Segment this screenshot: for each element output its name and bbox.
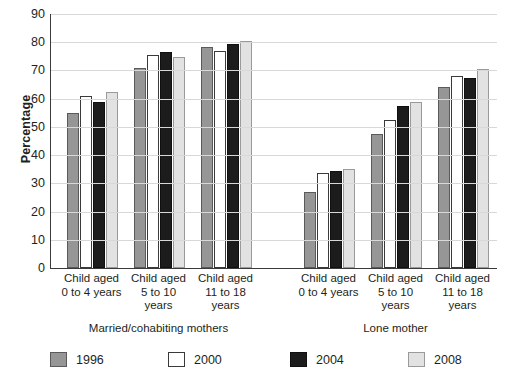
y-axis-tick-label: 60 bbox=[5, 92, 45, 106]
bar-2004-cat1 bbox=[160, 52, 172, 268]
category-label-line: years bbox=[359, 299, 433, 313]
gridline bbox=[51, 155, 497, 156]
bar-1996-cat2 bbox=[201, 47, 213, 268]
category-label-line: years bbox=[426, 299, 500, 313]
category-label-line: Child aged bbox=[122, 272, 196, 286]
category-label-line: Child aged bbox=[55, 272, 129, 286]
category-label: Child aged11 to 18years bbox=[426, 272, 500, 313]
y-axis-tick-label: 20 bbox=[5, 205, 45, 219]
category-label: Child aged5 to 10years bbox=[122, 272, 196, 313]
legend-item-2008[interactable]: 2008 bbox=[408, 352, 462, 367]
y-axis-tick-label: 50 bbox=[5, 120, 45, 134]
bar-chart: Percentage 0102030405060708090 Child age… bbox=[0, 0, 521, 384]
legend-swatch-2000 bbox=[168, 352, 185, 367]
category-label-line: 11 to 18 bbox=[426, 286, 500, 300]
legend-item-1996[interactable]: 1996 bbox=[50, 352, 104, 367]
gridline bbox=[51, 14, 497, 15]
y-axis-tick-label: 10 bbox=[5, 233, 45, 247]
bar-2000-cat0 bbox=[80, 96, 92, 268]
bar-2000-cat3 bbox=[317, 173, 329, 268]
category-label-line: 5 to 10 bbox=[122, 286, 196, 300]
gridline bbox=[51, 42, 497, 43]
category-label-line: years bbox=[122, 299, 196, 313]
y-axis-tick-label: 80 bbox=[5, 35, 45, 49]
gridline bbox=[51, 127, 497, 128]
gridline bbox=[51, 212, 497, 213]
legend-swatch-2004 bbox=[290, 352, 307, 367]
category-label-line: Child aged bbox=[426, 272, 500, 286]
category-label: Child aged0 to 4 years bbox=[55, 272, 129, 299]
bar-2000-cat4 bbox=[384, 120, 396, 268]
legend-swatch-2008 bbox=[408, 352, 425, 367]
y-axis-tick-label: 90 bbox=[5, 7, 45, 21]
bar-2008-cat0 bbox=[106, 92, 118, 268]
legend-item-2000[interactable]: 2000 bbox=[168, 352, 222, 367]
bar-1996-cat4 bbox=[371, 134, 383, 268]
category-label-line: 0 to 4 years bbox=[292, 286, 366, 300]
legend-label: 2004 bbox=[316, 353, 344, 367]
bars-layer bbox=[51, 14, 497, 268]
plot-area: 0102030405060708090 bbox=[50, 14, 497, 269]
legend-label: 2000 bbox=[194, 353, 222, 367]
bar-2000-cat1 bbox=[147, 55, 159, 268]
category-label-line: years bbox=[189, 299, 263, 313]
bar-1996-cat5 bbox=[438, 87, 450, 268]
category-label-line: Child aged bbox=[359, 272, 433, 286]
legend-label: 2008 bbox=[434, 353, 462, 367]
gridline bbox=[51, 70, 497, 71]
group-label: Married/cohabiting mothers bbox=[59, 322, 259, 334]
bar-2008-cat1 bbox=[173, 57, 185, 268]
category-label: Child aged0 to 4 years bbox=[292, 272, 366, 299]
gridline bbox=[51, 183, 497, 184]
gridline bbox=[51, 99, 497, 100]
category-label-line: 5 to 10 bbox=[359, 286, 433, 300]
bar-1996-cat3 bbox=[304, 192, 316, 268]
bar-1996-cat0 bbox=[67, 113, 79, 268]
group-label: Lone mother bbox=[296, 322, 496, 334]
legend-label: 1996 bbox=[76, 353, 104, 367]
legend-item-2004[interactable]: 2004 bbox=[290, 352, 344, 367]
bar-2000-cat2 bbox=[214, 51, 226, 268]
bar-2004-cat4 bbox=[397, 106, 409, 268]
category-label: Child aged5 to 10years bbox=[359, 272, 433, 313]
category-label: Child aged11 to 18years bbox=[189, 272, 263, 313]
category-label-line: 0 to 4 years bbox=[55, 286, 129, 300]
category-label-line: Child aged bbox=[292, 272, 366, 286]
legend-swatch-1996 bbox=[50, 352, 67, 367]
y-axis-tick-label: 40 bbox=[5, 148, 45, 162]
category-label-line: Child aged bbox=[189, 272, 263, 286]
y-axis-tick-label: 30 bbox=[5, 176, 45, 190]
chart-legend: 1996200020042008 bbox=[50, 352, 496, 374]
y-axis-tick-label: 70 bbox=[5, 63, 45, 77]
bar-2004-cat3 bbox=[330, 171, 342, 268]
gridline bbox=[51, 240, 497, 241]
y-axis-tick-label: 0 bbox=[5, 261, 45, 275]
category-label-line: 11 to 18 bbox=[189, 286, 263, 300]
category-axis-labels: Child aged0 to 4 yearsChild aged5 to 10y… bbox=[50, 272, 496, 318]
